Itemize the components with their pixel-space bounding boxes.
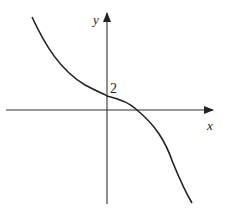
graph: y x 2 (0, 0, 230, 219)
x-axis-label: x (206, 118, 213, 133)
y-intercept-label: 2 (110, 81, 117, 96)
y-axis-label: y (91, 12, 99, 27)
